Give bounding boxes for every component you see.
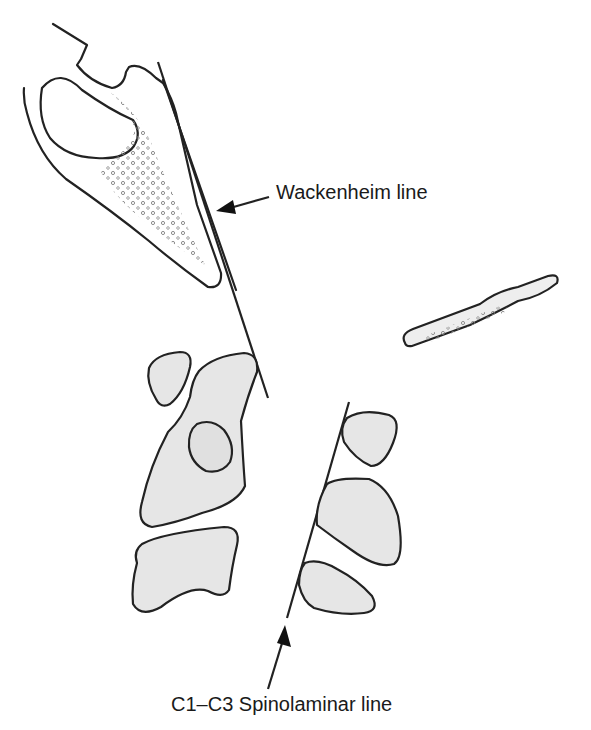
arrowhead-icon (277, 625, 291, 647)
spinolaminar-arrow (268, 625, 291, 689)
c3-spinous-process (299, 561, 375, 613)
arrowhead-icon (216, 200, 236, 214)
clivus-texture (100, 92, 205, 265)
c1-posterior-arch (342, 412, 397, 466)
c2-spinous-process (317, 479, 401, 566)
c3-vertebral-body (133, 527, 238, 612)
wackenheim-line-label: Wackenheim line (276, 181, 428, 204)
c1-anterior-arch (148, 352, 190, 406)
wackenheim-arrow (216, 197, 269, 214)
cervical-spine-diagram (0, 0, 591, 730)
spinolaminar-line-label: C1–C3 Spinolaminar line (171, 693, 392, 716)
